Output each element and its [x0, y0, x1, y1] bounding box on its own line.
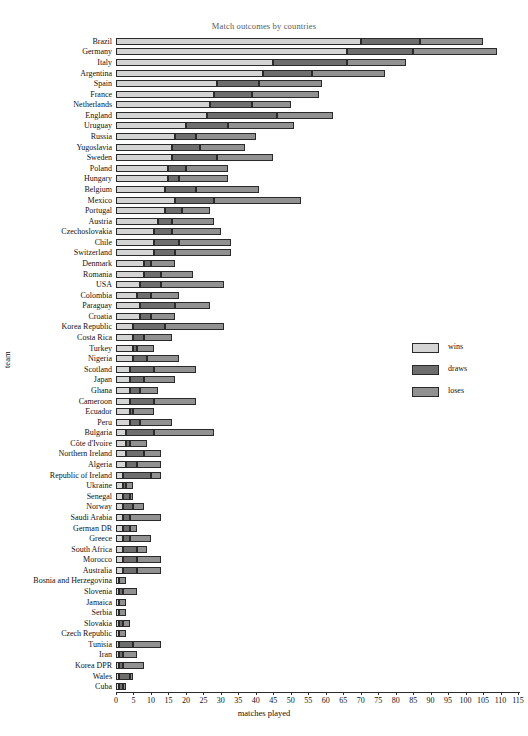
- bar-segment-draws[interactable]: [214, 91, 252, 98]
- bar-row[interactable]: [116, 122, 518, 129]
- bar-row[interactable]: [116, 207, 518, 214]
- bar-segment-wins[interactable]: [116, 38, 361, 45]
- bar-row[interactable]: [116, 662, 518, 669]
- bar-segment-loses[interactable]: [175, 249, 231, 256]
- bar-row[interactable]: [116, 271, 518, 278]
- bar-row[interactable]: [116, 133, 518, 140]
- bar-segment-draws[interactable]: [126, 429, 154, 436]
- bar-segment-wins[interactable]: [116, 514, 123, 521]
- bar-segment-draws[interactable]: [133, 334, 143, 341]
- bar-segment-draws[interactable]: [119, 641, 133, 648]
- bar-segment-wins[interactable]: [116, 450, 126, 457]
- bar-segment-draws[interactable]: [123, 525, 130, 532]
- bar-segment-loses[interactable]: [123, 620, 130, 627]
- bar-segment-loses[interactable]: [179, 175, 228, 182]
- bar-segment-wins[interactable]: [116, 80, 217, 87]
- bar-segment-wins[interactable]: [116, 535, 123, 542]
- bar-segment-draws[interactable]: [172, 144, 200, 151]
- bar-row[interactable]: [116, 59, 518, 66]
- bar-row[interactable]: [116, 577, 518, 584]
- bar-segment-draws[interactable]: [175, 133, 196, 140]
- bar-segment-wins[interactable]: [116, 376, 130, 383]
- bar-segment-wins[interactable]: [116, 165, 168, 172]
- bar-segment-wins[interactable]: [116, 419, 130, 426]
- bar-segment-loses[interactable]: [123, 651, 137, 658]
- bar-segment-draws[interactable]: [210, 101, 252, 108]
- bar-segment-loses[interactable]: [252, 91, 318, 98]
- bar-segment-loses[interactable]: [259, 80, 322, 87]
- bar-row[interactable]: [116, 175, 518, 182]
- bar-segment-loses[interactable]: [123, 588, 137, 595]
- bar-segment-loses[interactable]: [175, 302, 210, 309]
- bar-segment-draws[interactable]: [140, 302, 175, 309]
- bar-segment-draws[interactable]: [168, 165, 185, 172]
- bar-segment-wins[interactable]: [116, 345, 133, 352]
- bar-segment-draws[interactable]: [123, 514, 130, 521]
- bar-row[interactable]: [116, 165, 518, 172]
- bar-segment-loses[interactable]: [154, 366, 196, 373]
- bar-segment-loses[interactable]: [179, 239, 231, 246]
- bar-row[interactable]: [116, 48, 518, 55]
- bar-segment-wins[interactable]: [116, 302, 140, 309]
- bar-segment-wins[interactable]: [116, 175, 168, 182]
- bar-row[interactable]: [116, 609, 518, 616]
- bar-segment-draws[interactable]: [123, 567, 137, 574]
- bar-row[interactable]: [116, 292, 518, 299]
- bar-row[interactable]: [116, 228, 518, 235]
- bar-row[interactable]: [116, 38, 518, 45]
- bar-segment-wins[interactable]: [116, 429, 126, 436]
- bar-row[interactable]: [116, 440, 518, 447]
- bar-segment-wins[interactable]: [116, 70, 263, 77]
- bar-segment-loses[interactable]: [119, 599, 126, 606]
- bar-segment-loses[interactable]: [137, 345, 154, 352]
- bar-segment-draws[interactable]: [123, 493, 130, 500]
- bar-segment-draws[interactable]: [130, 387, 140, 394]
- bar-segment-loses[interactable]: [277, 112, 333, 119]
- bar-segment-loses[interactable]: [119, 577, 126, 584]
- bar-segment-wins[interactable]: [116, 292, 137, 299]
- bar-segment-loses[interactable]: [130, 535, 151, 542]
- bar-row[interactable]: [116, 218, 518, 225]
- bar-segment-loses[interactable]: [151, 472, 161, 479]
- bar-segment-draws[interactable]: [144, 271, 161, 278]
- bar-segment-draws[interactable]: [130, 366, 154, 373]
- bar-segment-loses[interactable]: [137, 556, 161, 563]
- bar-segment-draws[interactable]: [347, 48, 413, 55]
- bar-segment-loses[interactable]: [151, 292, 179, 299]
- bar-row[interactable]: [116, 154, 518, 161]
- bar-segment-wins[interactable]: [116, 482, 123, 489]
- bar-segment-draws[interactable]: [126, 450, 143, 457]
- bar-row[interactable]: [116, 599, 518, 606]
- bar-segment-loses[interactable]: [172, 218, 214, 225]
- bar-segment-wins[interactable]: [116, 260, 144, 267]
- bar-segment-wins[interactable]: [116, 271, 144, 278]
- bar-segment-loses[interactable]: [413, 48, 497, 55]
- bar-segment-loses[interactable]: [140, 419, 171, 426]
- bar-segment-loses[interactable]: [161, 271, 192, 278]
- bar-segment-draws[interactable]: [126, 461, 136, 468]
- bar-segment-wins[interactable]: [116, 408, 130, 415]
- bar-row[interactable]: [116, 91, 518, 98]
- bar-row[interactable]: [116, 260, 518, 267]
- legend-item-loses[interactable]: loses: [412, 384, 512, 406]
- bar-row[interactable]: [116, 546, 518, 553]
- bar-segment-draws[interactable]: [165, 186, 196, 193]
- bar-row[interactable]: [116, 239, 518, 246]
- bar-row[interactable]: [116, 461, 518, 468]
- bar-segment-loses[interactable]: [228, 122, 294, 129]
- bar-row[interactable]: [116, 186, 518, 193]
- bar-segment-draws[interactable]: [130, 419, 140, 426]
- bar-segment-loses[interactable]: [154, 398, 196, 405]
- bar-segment-draws[interactable]: [133, 323, 164, 330]
- bar-segment-loses[interactable]: [123, 662, 144, 669]
- bar-segment-loses[interactable]: [161, 281, 224, 288]
- bar-segment-loses[interactable]: [130, 525, 137, 532]
- bar-segment-wins[interactable]: [116, 472, 123, 479]
- bar-segment-wins[interactable]: [116, 122, 186, 129]
- bar-segment-wins[interactable]: [116, 249, 154, 256]
- bar-segment-wins[interactable]: [116, 546, 123, 553]
- bar-segment-wins[interactable]: [116, 503, 123, 510]
- bar-row[interactable]: [116, 683, 518, 690]
- bar-segment-draws[interactable]: [123, 503, 133, 510]
- bar-segment-loses[interactable]: [137, 567, 161, 574]
